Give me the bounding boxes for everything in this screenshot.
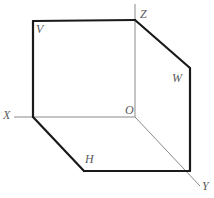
plane-label-w: W	[172, 72, 182, 84]
axis-label-x: X	[3, 109, 10, 121]
origin-label-o: O	[125, 104, 134, 116]
plane-edges-group	[33, 20, 190, 171]
h-plane-left-edge	[33, 117, 84, 171]
projection-planes-figure: ZVWOXHY	[0, 0, 214, 198]
w-plane-top-edge	[135, 20, 190, 68]
v-plane-top-edge	[33, 20, 135, 21]
plane-label-h: H	[85, 153, 94, 165]
plane-label-v: V	[36, 23, 43, 35]
axis-label-y: Y	[202, 180, 209, 192]
vertex-label-z: Z	[140, 8, 147, 20]
figure-canvas	[0, 0, 214, 198]
